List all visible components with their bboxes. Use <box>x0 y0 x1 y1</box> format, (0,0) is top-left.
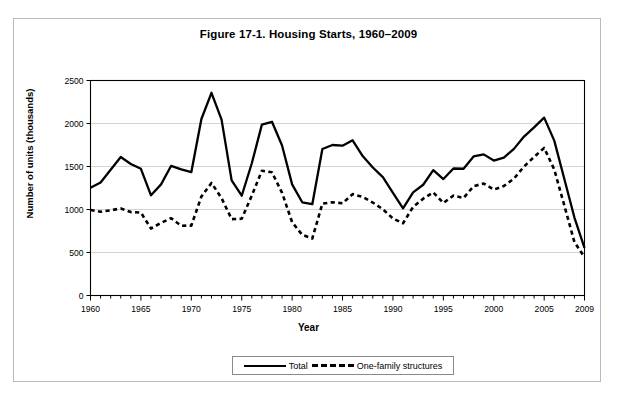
x-tick-label: 2005 <box>535 304 554 314</box>
legend-label-one-family: One-family structures <box>357 361 443 371</box>
y-axis-ticks: 05001000150020002500 <box>64 76 90 301</box>
legend-swatch-solid-icon <box>244 365 286 367</box>
x-tick-label: 1970 <box>182 304 201 314</box>
legend-label-total: Total <box>289 361 308 371</box>
series-line-1 <box>91 93 585 248</box>
x-tick-label: 1960 <box>81 304 100 314</box>
y-tick-label: 1500 <box>64 162 83 172</box>
chart-plot-area: 05001000150020002500 1960196519701975198… <box>0 0 617 395</box>
data-series-layer <box>91 93 585 257</box>
x-axis-ticks: 1960196519701975198019851990199520002005… <box>81 296 594 314</box>
plot-border <box>91 81 585 296</box>
series-line-2 <box>91 148 585 257</box>
x-tick-label: 1985 <box>333 304 352 314</box>
x-tick-label: 1980 <box>283 304 302 314</box>
x-tick-label: 2009 <box>575 304 594 314</box>
legend-item-one-family: One-family structures <box>312 361 443 371</box>
gridlines <box>91 81 585 253</box>
y-tick-label: 2500 <box>64 76 83 86</box>
legend-item-total: Total <box>244 361 308 371</box>
x-tick-label: 2000 <box>484 304 503 314</box>
y-tick-label: 0 <box>79 291 84 301</box>
y-tick-label: 1000 <box>64 205 83 215</box>
x-tick-label: 1995 <box>434 304 453 314</box>
legend-swatch-dashed-icon <box>312 364 354 367</box>
y-tick-label: 500 <box>69 248 84 258</box>
figure-container: Figure 17-1. Housing Starts, 1960–2009 N… <box>0 0 617 395</box>
x-tick-label: 1975 <box>232 304 251 314</box>
chart-legend: Total One-family structures <box>232 356 454 375</box>
x-tick-label: 1965 <box>131 304 150 314</box>
x-tick-label: 1990 <box>383 304 402 314</box>
y-tick-label: 2000 <box>64 119 83 129</box>
